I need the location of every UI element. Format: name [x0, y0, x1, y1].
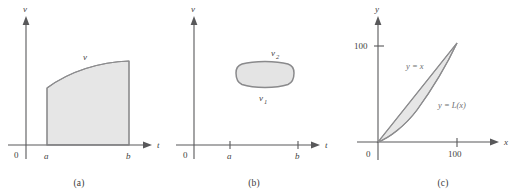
shaded-area-under-curve-a: [47, 61, 129, 145]
y-axis-arrow-b: [191, 16, 198, 25]
x-axis-label-a: t: [157, 140, 160, 150]
panel-caption-c: (c): [353, 178, 525, 188]
panel-caption-a: (a): [0, 178, 165, 188]
x-axis-arrow-c: [490, 139, 499, 146]
x-axis-arrow-a: [143, 142, 152, 149]
panel-b: v t 0 a b v 2 v 1 (b): [168, 0, 340, 192]
panel-a: v t 0 a b v (a): [0, 0, 172, 192]
origin-label-b: 0: [183, 150, 188, 160]
shaded-region-b: [236, 61, 294, 87]
x-axis-label-b: t: [325, 140, 328, 150]
y-axis-label-b: v: [191, 4, 195, 14]
curve-label-a: v: [83, 52, 87, 62]
lower-curve-label-c: y = L(x): [437, 100, 466, 110]
x-axis-arrow-b: [311, 142, 320, 149]
origin-label-a: 0: [14, 150, 19, 160]
x-tick-label-b-a: a: [227, 151, 232, 161]
lower-curve-subscript-b: 1: [264, 98, 267, 105]
x-tick-label-a-b: b: [126, 151, 131, 161]
origin-label-c: 0: [366, 149, 371, 159]
upper-curve-subscript-b: 2: [276, 53, 280, 60]
y-axis-arrow-a: [23, 16, 30, 25]
x-axis-label-c: x: [503, 137, 508, 147]
y-axis-label-c: y: [374, 4, 379, 14]
x-tick-label-a-a: a: [44, 151, 49, 161]
y-axis-label-a: v: [23, 4, 27, 14]
panel-caption-b: (b): [168, 178, 340, 188]
y-axis-arrow-c: [375, 16, 382, 25]
panel-c: y x 0 100 100 y = x y = L(x) (c): [345, 0, 525, 192]
figure-container: v t 0 a b v (a) v t 0 a b: [0, 0, 525, 192]
upper-curve-label-c: y = x: [405, 61, 424, 71]
x-tick-label-c-100: 100: [448, 149, 462, 159]
line-y-equals-x-c: [378, 43, 457, 142]
lower-curve-label-b: v: [259, 93, 263, 103]
upper-curve-label-b: v: [271, 48, 275, 58]
y-tick-label-c-100: 100: [354, 41, 368, 51]
x-tick-label-b-b: b: [295, 151, 300, 161]
